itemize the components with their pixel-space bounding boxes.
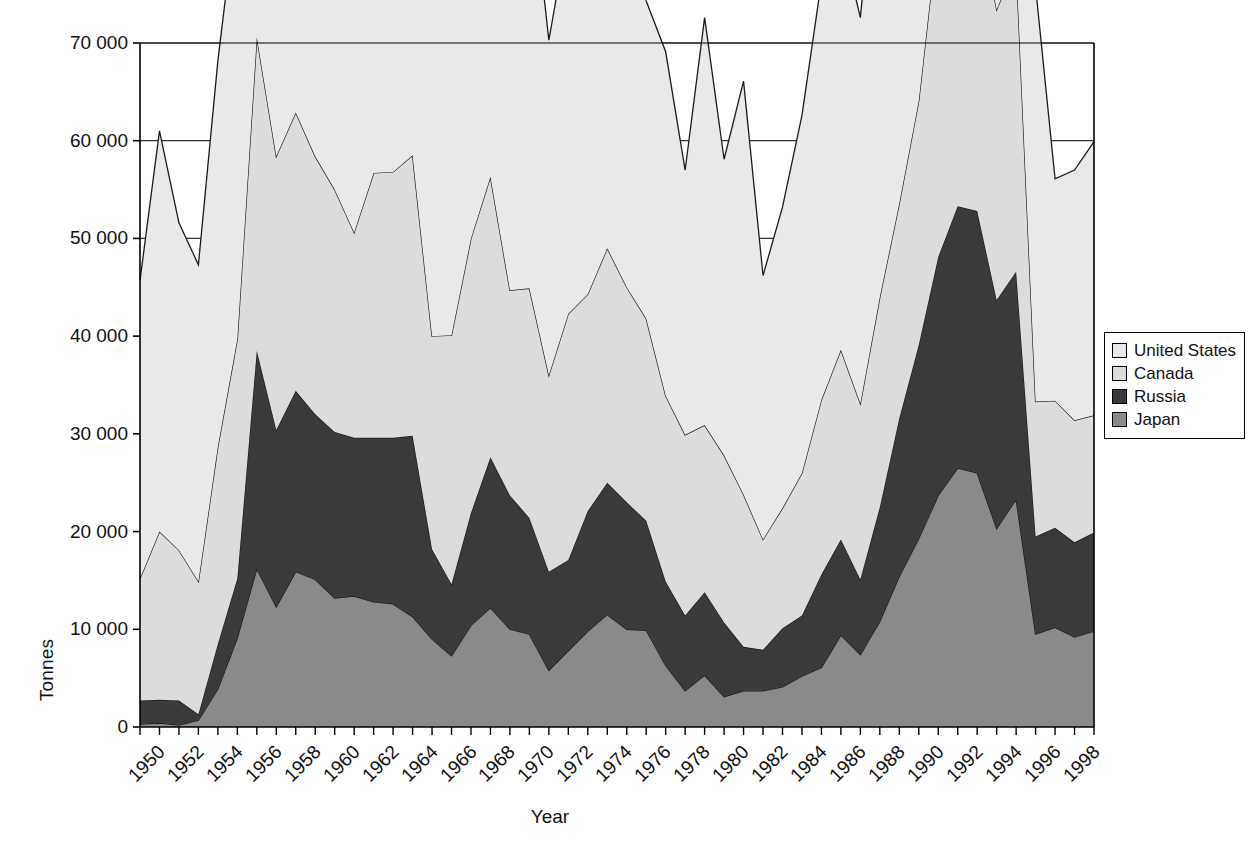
y-axis-title: Tonnes [36,600,58,740]
chart-legend: United StatesCanadaRussiaJapan [1104,332,1245,439]
y-tick-label: 40 000 [10,325,128,347]
legend-item-label: Canada [1134,364,1194,384]
stacked-area-chart: 010 00020 00030 00040 00050 00060 00070 … [0,0,1259,858]
legend-swatch-icon [1112,389,1127,404]
y-tick-label: 70 000 [10,32,128,54]
legend-item-label: United States [1134,341,1236,361]
y-tick-label: 60 000 [10,130,128,152]
series-areas [140,0,1094,727]
legend-item-japan[interactable]: Japan [1112,408,1236,431]
y-tick-label: 10 000 [10,618,128,640]
y-tick-label: 20 000 [10,521,128,543]
legend-item-united-states[interactable]: United States [1112,339,1236,362]
plot-area [0,0,1259,858]
legend-item-label: Japan [1134,410,1180,430]
legend-item-canada[interactable]: Canada [1112,362,1236,385]
legend-item-label: Russia [1134,387,1186,407]
legend-swatch-icon [1112,366,1127,381]
legend-item-russia[interactable]: Russia [1112,385,1236,408]
legend-swatch-icon [1112,412,1127,427]
x-axis-title: Year [0,806,1100,828]
y-tick-label: 0 [10,716,128,738]
legend-swatch-icon [1112,343,1127,358]
y-tick-label: 30 000 [10,423,128,445]
y-axis-tick-labels: 010 00020 00030 00040 00050 00060 00070 … [8,0,128,858]
y-tick-label: 50 000 [10,227,128,249]
y-axis-ticks [133,43,140,727]
x-axis-ticks [140,727,1094,735]
